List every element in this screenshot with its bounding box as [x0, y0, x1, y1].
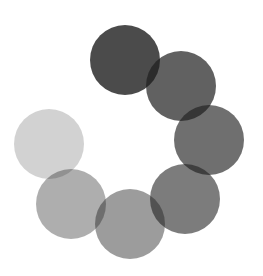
spinner-dot [36, 169, 106, 239]
loading-spinner [0, 0, 263, 276]
spinner-dot [14, 109, 84, 179]
